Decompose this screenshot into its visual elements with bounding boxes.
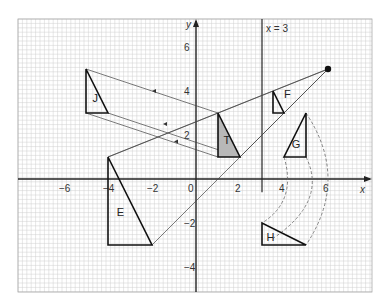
triangle-label-e: E <box>117 206 124 218</box>
origin-label: 0 <box>188 183 194 194</box>
x-tick-label: −2 <box>147 183 159 194</box>
triangle-label-g: G <box>292 138 301 150</box>
grid-lines <box>18 19 372 292</box>
y-tick-label: 6 <box>184 42 190 53</box>
triangle-label-t: T <box>224 134 231 146</box>
x-axis-label: x <box>359 184 366 195</box>
triangle-label-j: J <box>93 92 99 104</box>
mirror-line-label: x = 3 <box>266 23 288 34</box>
y-tick-label: 4 <box>184 86 190 97</box>
triangle-label-f: F <box>284 88 291 100</box>
centre-of-enlargement-point <box>325 66 331 72</box>
x-tick-label: −4 <box>103 183 115 194</box>
y-tick-label: −4 <box>184 262 196 273</box>
coordinate-grid-diagram: −6−4−2246642−2−4 JTFGEH x y 0 x = 3 <box>0 0 385 308</box>
y-tick-label: −2 <box>184 218 196 229</box>
triangle-f <box>273 91 284 113</box>
x-tick-label: 2 <box>235 183 241 194</box>
x-tick-label: 4 <box>279 183 285 194</box>
triangle-label-h: H <box>266 231 274 243</box>
y-axis-label: y <box>185 19 192 30</box>
x-tick-label: −6 <box>59 183 71 194</box>
